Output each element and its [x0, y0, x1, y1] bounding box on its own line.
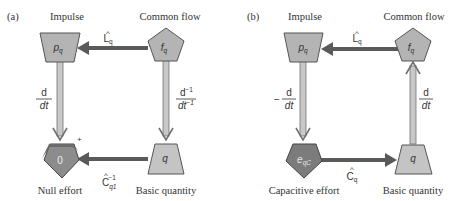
- node-title-impulse: Impulse: [50, 11, 84, 22]
- diagram-canvas: (a) Impulse Common flow pq: [0, 0, 461, 201]
- node-null-effort-a: 0 +: [42, 135, 82, 178]
- svg-text:dt−1: dt−1: [178, 99, 194, 111]
- edge-left-a: [53, 58, 67, 140]
- node-title-null-effort: Null effort: [38, 185, 83, 196]
- node-title-capacitive-effort: Capacitive effort: [269, 185, 340, 196]
- node-impulse-b: pq: [284, 33, 323, 62]
- label-left-a: d dt: [36, 87, 52, 111]
- edge-right-a: [159, 58, 173, 140]
- svg-text:d: d: [286, 87, 292, 98]
- svg-text:q: q: [410, 153, 416, 164]
- edge-right-b: [406, 62, 420, 144]
- svg-text:Cq1−1: Cq1−1: [102, 174, 117, 191]
- svg-text:d: d: [41, 87, 47, 98]
- svg-text:q: q: [162, 153, 168, 164]
- svg-text:dt: dt: [422, 100, 432, 111]
- edge-left-b: [296, 58, 310, 140]
- svg-text:Cq: Cq: [347, 171, 358, 184]
- node-title-basic-quantity: Basic quantity: [383, 185, 444, 196]
- node-title-common-flow: Common flow: [384, 11, 445, 22]
- panel-label-b: (b): [247, 11, 260, 23]
- svg-text:dt: dt: [285, 100, 295, 111]
- label-right-a: d−1 dt−1: [176, 86, 196, 111]
- label-left-b: − d dt: [274, 87, 296, 111]
- node-title-basic-quantity: Basic quantity: [136, 185, 197, 196]
- svg-text:Lq: Lq: [103, 33, 113, 46]
- svg-text:Lq: Lq: [352, 33, 362, 46]
- label-bottom-b: ^ Cq: [347, 165, 358, 184]
- svg-text:d: d: [423, 87, 429, 98]
- node-basic-quantity-a: q: [148, 144, 184, 174]
- svg-text:dt: dt: [40, 100, 50, 111]
- svg-text:d−1: d−1: [180, 86, 193, 98]
- node-title-common-flow: Common flow: [140, 11, 201, 22]
- edge-bottom-a: [77, 152, 148, 166]
- panel-a: (a) Impulse Common flow pq: [7, 11, 201, 196]
- node-basic-quantity-b: q: [395, 145, 432, 174]
- label-top-a: ^ Lq: [103, 29, 113, 46]
- node-impulse-a: pq: [40, 33, 80, 62]
- panel-label-a: (a): [7, 11, 19, 23]
- plus-sign: +: [77, 135, 82, 144]
- panel-b: (b) Impulse Common flow pq: [247, 11, 445, 196]
- svg-text:−: −: [274, 94, 280, 105]
- label-top-b: ^ Lq: [352, 29, 362, 46]
- node-common-flow-a: fq: [148, 28, 184, 61]
- node-capacitive-effort-b: eqC: [286, 144, 322, 178]
- label-right-b: d dt: [419, 87, 433, 111]
- edge-bottom-b: [318, 153, 397, 167]
- svg-text:0: 0: [57, 155, 63, 166]
- label-bottom-a: ^ Cq1−1: [102, 171, 117, 191]
- node-title-impulse: Impulse: [288, 11, 322, 22]
- node-common-flow-b: fq: [395, 28, 431, 61]
